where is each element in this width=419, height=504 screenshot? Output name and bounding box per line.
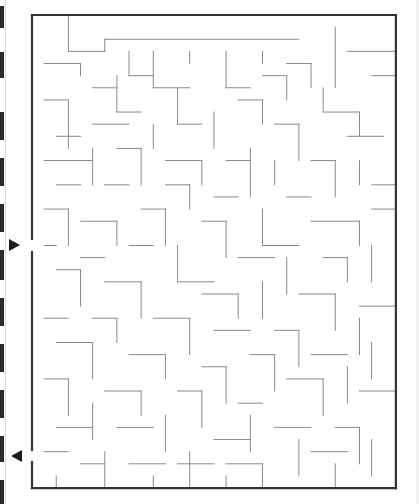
maze-border [32, 15, 396, 488]
exit-arrow-icon [11, 450, 22, 462]
entrance-arrow-icon [9, 239, 20, 251]
maze [0, 0, 419, 504]
maze-walls [44, 15, 396, 488]
